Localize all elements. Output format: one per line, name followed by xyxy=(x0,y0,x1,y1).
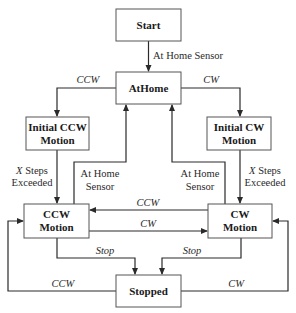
label-initial-ccw-to-ccw-motion-line2: Exceeded xyxy=(12,177,54,188)
label-start-to-athome: At Home Sensor xyxy=(153,50,223,61)
label-steps-word: Steps xyxy=(256,165,281,176)
label-steps-word: Steps xyxy=(23,165,48,176)
label-cw-motion-to-athome-line1: At Home xyxy=(181,168,220,179)
state-cw-motion-label-line1: CW xyxy=(231,208,250,220)
label-athome-to-initial-cw: CW xyxy=(203,74,220,85)
state-start-label: Start xyxy=(137,19,161,31)
label-athome-to-initial-ccw: CCW xyxy=(77,74,101,85)
state-start: Start xyxy=(116,9,181,41)
label-cw-motion-to-athome-line2: Sensor xyxy=(186,181,215,192)
label-ccw-motion-to-stopped: Stop xyxy=(96,245,115,256)
state-initial-ccw-label-line2: Motion xyxy=(40,134,74,146)
edge-athome-to-initial-cw xyxy=(181,88,240,116)
edge-ccw-motion-to-stopped xyxy=(57,238,135,274)
label-initial-cw-to-cw-motion-line2: Exceeded xyxy=(245,177,287,188)
state-stopped: Stopped xyxy=(116,275,181,307)
state-initial-cw-motion: Initial CW Motion xyxy=(207,117,271,150)
state-ccw-motion: CCW Motion xyxy=(24,204,89,238)
state-initial-cw-label-line2: Motion xyxy=(222,134,256,146)
state-stopped-label: Stopped xyxy=(129,285,168,297)
label-stopped-to-ccw-motion: CCW xyxy=(52,278,76,289)
label-cw-motion-to-ccw-motion: CCW xyxy=(137,197,161,208)
state-athome: AtHome xyxy=(116,72,181,104)
edge-athome-to-initial-ccw xyxy=(57,88,116,116)
label-stopped-to-cw-motion: CW xyxy=(228,278,245,289)
state-cw-motion: CW Motion xyxy=(208,204,272,238)
edge-cw-motion-to-stopped xyxy=(162,238,241,274)
state-initial-ccw-motion: Initial CCW Motion xyxy=(26,117,89,150)
state-ccw-motion-label-line1: CCW xyxy=(43,208,70,220)
label-ccw-motion-to-athome-line2: Sensor xyxy=(86,181,115,192)
label-cw-motion-to-stopped: Stop xyxy=(183,245,202,256)
state-diagram: Start AtHome Initial CCW Motion Initial … xyxy=(0,0,296,313)
state-athome-label: AtHome xyxy=(129,82,169,94)
label-initial-cw-to-cw-motion-line1: X Steps xyxy=(248,165,281,176)
label-initial-ccw-to-ccw-motion-line1: X Steps xyxy=(15,165,48,176)
label-ccw-motion-to-cw-motion: CW xyxy=(140,218,157,229)
state-ccw-motion-label-line2: Motion xyxy=(39,221,73,233)
state-cw-motion-label-line2: Motion xyxy=(223,221,257,233)
state-initial-ccw-label-line1: Initial CCW xyxy=(28,121,86,133)
state-initial-cw-label-line1: Initial CW xyxy=(214,121,264,133)
label-ccw-motion-to-athome-line1: At Home xyxy=(81,168,120,179)
